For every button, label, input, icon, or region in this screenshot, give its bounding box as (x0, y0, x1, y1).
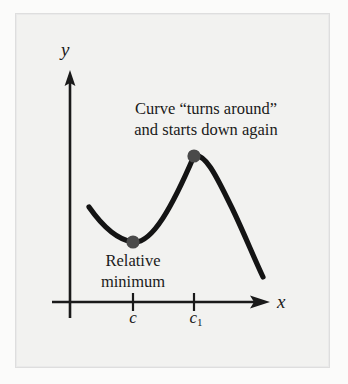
tick-label-c1-base: c (189, 308, 197, 327)
annotation-turnaround-line1: Curve “turns around” (134, 98, 277, 119)
relative-minimum-point (126, 235, 139, 248)
calculus-curve-figure: y x c c1 Curve “turns around” and starts… (0, 0, 348, 384)
tick-label-c1-subscript: 1 (197, 316, 203, 328)
plot-canvas (0, 0, 348, 384)
y-axis-label: y (61, 38, 69, 62)
annotation-minimum-line1: Relative (101, 250, 165, 271)
relative-maximum-point (187, 149, 200, 162)
annotation-turnaround: Curve “turns around” and starts down aga… (134, 98, 277, 140)
tick-label-c: c (129, 307, 137, 329)
tick-label-c1: c1 (189, 307, 202, 329)
x-axis-label: x (277, 290, 285, 314)
annotation-minimum-line2: minimum (101, 271, 165, 292)
annotation-relative-minimum: Relative minimum (101, 250, 165, 292)
annotation-turnaround-line2: and starts down again (134, 119, 277, 140)
